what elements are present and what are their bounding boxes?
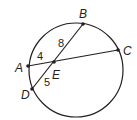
point-b-label: B: [79, 7, 87, 21]
point-d-marker: [30, 87, 34, 91]
length-label-ae: 4: [37, 50, 43, 62]
point-c-marker: [116, 48, 120, 52]
point-d-label: D: [21, 88, 30, 102]
length-label-ed: 5: [44, 76, 50, 88]
point-c-label: C: [123, 44, 132, 58]
point-b-marker: [81, 22, 85, 26]
circle: [29, 23, 123, 117]
point-e-label: E: [52, 68, 61, 82]
length-label-eb: 8: [58, 37, 64, 49]
point-a-marker: [26, 64, 30, 68]
circle-chords-diagram: ABCDE 4 8 5: [0, 0, 137, 120]
point-a-label: A: [14, 61, 23, 75]
point-e-marker: [52, 60, 56, 64]
